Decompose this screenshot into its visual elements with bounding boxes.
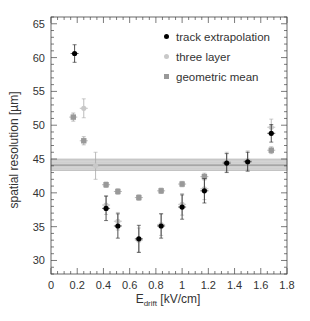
circle-marker: [136, 236, 141, 241]
square-marker: [71, 114, 76, 119]
y-tick-label: 65: [33, 18, 45, 30]
legend-item-track-extrapolation: track extrapolation: [160, 27, 270, 47]
circle-marker: [159, 223, 164, 228]
circle-marker: [180, 204, 185, 209]
circle-marker: [224, 160, 229, 165]
legend-label: three layer: [176, 51, 230, 63]
y-tick-label: 30: [33, 254, 45, 266]
circle-marker: [245, 159, 250, 164]
legend-label: geometric mean: [176, 71, 258, 83]
x-axis-label: Edrift [kV/cm]: [136, 292, 201, 308]
square-marker-icon: [164, 74, 169, 79]
square-marker: [81, 138, 86, 143]
square-marker: [103, 182, 108, 187]
legend-item-geometric-mean: geometric mean: [160, 67, 270, 87]
circle-marker: [202, 188, 207, 193]
x-tick-label: 1.4: [227, 279, 242, 291]
legend: track extrapolation three layer geometri…: [160, 27, 270, 87]
square-marker: [158, 188, 163, 193]
square-marker: [179, 181, 184, 186]
x-tick-label: 0.6: [122, 279, 137, 291]
x-tick-label: 1: [179, 279, 185, 291]
chart: 00.20.40.60.811.21.41.61.830354045505560…: [0, 0, 310, 321]
y-tick-label: 50: [33, 119, 45, 131]
x-axis-label-unit: [kV/cm]: [157, 292, 200, 306]
y-tick-label: 55: [33, 85, 45, 97]
x-tick-label: 0.8: [148, 279, 163, 291]
y-tick-label: 40: [33, 187, 45, 199]
x-tick-label: 1.8: [279, 279, 294, 291]
x-tick-label: 0: [48, 279, 54, 291]
x-axis-label-sub: drift: [144, 299, 157, 308]
y-tick-label: 45: [33, 153, 45, 165]
y-tick-label: 60: [33, 52, 45, 64]
circle-marker: [103, 206, 108, 211]
x-axis-label-main: E: [136, 292, 144, 306]
circle-marker: [72, 51, 77, 56]
square-marker: [115, 189, 120, 194]
x-tick-label: 0.4: [96, 279, 111, 291]
x-tick-label: 1.6: [253, 279, 268, 291]
circle-marker-icon: [164, 54, 169, 59]
circle-marker: [81, 106, 86, 111]
square-marker: [269, 148, 274, 153]
circle-marker: [93, 163, 98, 168]
x-tick-label: 0.2: [70, 279, 85, 291]
square-marker: [136, 195, 141, 200]
legend-item-three-layer: three layer: [160, 47, 270, 67]
legend-label: track extrapolation: [176, 31, 270, 43]
y-axis-label: spatial resolution [µm]: [7, 92, 21, 209]
y-tick-label: 35: [33, 221, 45, 233]
circle-marker-icon: [164, 34, 169, 39]
circle-marker: [269, 131, 274, 136]
circle-marker: [115, 223, 120, 228]
x-tick-label: 1.2: [201, 279, 216, 291]
